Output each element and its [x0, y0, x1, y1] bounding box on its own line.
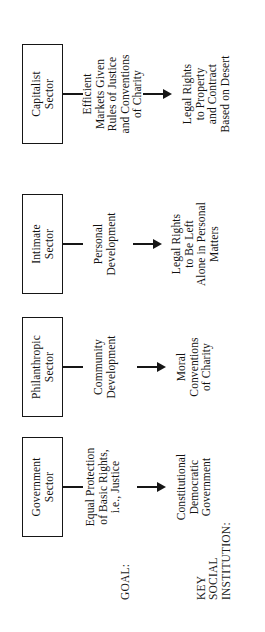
institution-text-intimate: Legal Rights to Be Left Alone in Persona…: [170, 187, 220, 301]
arrow-shaft: [133, 243, 155, 245]
sector-column-intimate: Intimate Sector Personal Development Leg…: [0, 181, 265, 301]
sector-box-intimate: Intimate Sector: [22, 194, 63, 294]
rotated-diagram-canvas: GOAL: KEY SOCIAL INSTITUTION: Government…: [0, 0, 265, 632]
sector-box-label: Intimate Sector: [30, 224, 56, 264]
arrow-shaft: [143, 93, 165, 95]
sector-box-government: Government Sector: [22, 437, 63, 537]
sector-comparison-diagram: GOAL: KEY SOCIAL INSTITUTION: Government…: [0, 0, 265, 632]
connector-stem: [63, 243, 83, 245]
goal-text-capitalist: Efficient Markets Given Rules of Justice…: [81, 37, 144, 151]
sector-box-philanthropic: Philanthropic Sector: [22, 317, 63, 417]
sector-column-philanthropic: Philanthropic Sector Community Developme…: [0, 304, 265, 424]
arrow-head: [157, 483, 166, 493]
arrow-head: [153, 240, 162, 250]
sector-column-capitalist: Capitalist Sector Efficient Markets Give…: [0, 31, 265, 151]
sector-box-capitalist: Capitalist Sector: [22, 44, 63, 144]
arrow-head: [163, 90, 172, 100]
sector-columns: Government Sector Equal Protection of Ba…: [0, 0, 265, 544]
goal-text-intimate: Personal Development: [92, 187, 117, 301]
institution-text-philanthropic: Moral Conventions of Charity: [175, 310, 213, 424]
goal-text-philanthropic: Community Development: [92, 310, 117, 424]
sector-box-label: Government Sector: [30, 458, 56, 517]
arrow-down-icon: [133, 237, 163, 251]
sector-column-government: Government Sector Equal Protection of Ba…: [0, 424, 265, 544]
connector-stem: [63, 366, 83, 368]
arrow-shaft: [137, 366, 159, 368]
arrow-head: [157, 363, 166, 373]
connector-stem: [63, 486, 83, 488]
arrow-shaft: [137, 486, 159, 488]
institution-text-government: Constitutional Democratic Government: [175, 430, 213, 544]
connector-stem: [63, 93, 83, 95]
row-label-goal: GOAL:: [119, 564, 132, 600]
arrow-down-icon: [137, 480, 167, 494]
sector-box-label: Philanthropic Sector: [30, 335, 56, 399]
arrow-down-icon: [143, 87, 173, 101]
institution-text-capitalist: Legal Rights to Property and Contract Ba…: [181, 37, 231, 151]
arrow-down-icon: [137, 360, 167, 374]
goal-text-government: Equal Protection of Basic Rights, i.e., …: [84, 430, 122, 544]
sector-box-label: Capitalist Sector: [30, 71, 56, 117]
